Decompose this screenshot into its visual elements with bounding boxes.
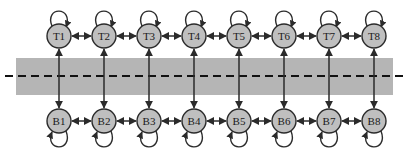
diagram-canvas: T1 T2 T3 T4 T5 T6 [0, 0, 408, 157]
node-B5-label: B5 [233, 115, 246, 127]
node-B5[interactable]: B5 [227, 109, 251, 133]
node-T5[interactable]: T5 [227, 24, 251, 48]
node-B8-label: B8 [368, 115, 381, 127]
node-T3-label: T3 [143, 30, 156, 42]
node-T1-label: T1 [53, 30, 65, 42]
node-T3[interactable]: T3 [137, 24, 161, 48]
node-T7[interactable]: T7 [317, 24, 341, 48]
graph-diagram: T1 T2 T3 T4 T5 T6 [0, 0, 408, 157]
node-B4-label: B4 [188, 115, 201, 127]
node-T4[interactable]: T4 [182, 24, 206, 48]
node-B7[interactable]: B7 [317, 109, 341, 133]
node-B2-label: B2 [98, 115, 111, 127]
node-B4[interactable]: B4 [182, 109, 206, 133]
node-T5-label: T5 [233, 30, 246, 42]
node-T2[interactable]: T2 [92, 24, 116, 48]
node-B6-label: B6 [278, 115, 291, 127]
node-T6-label: T6 [278, 30, 291, 42]
node-T8-label: T8 [368, 30, 381, 42]
node-T8[interactable]: T8 [362, 24, 386, 48]
node-T2-label: T2 [98, 30, 110, 42]
node-B2[interactable]: B2 [92, 109, 116, 133]
node-B6[interactable]: B6 [272, 109, 296, 133]
node-T6[interactable]: T6 [272, 24, 296, 48]
bottom-self-loops [51, 131, 383, 147]
node-B3[interactable]: B3 [137, 109, 161, 133]
separator-band [5, 58, 403, 95]
node-T4-label: T4 [188, 30, 201, 42]
node-B3-label: B3 [143, 115, 156, 127]
node-B7-label: B7 [323, 115, 336, 127]
node-B1[interactable]: B1 [47, 109, 71, 133]
node-T7-label: T7 [323, 30, 336, 42]
node-T1[interactable]: T1 [47, 24, 71, 48]
node-B8[interactable]: B8 [362, 109, 386, 133]
node-B1-label: B1 [53, 115, 66, 127]
